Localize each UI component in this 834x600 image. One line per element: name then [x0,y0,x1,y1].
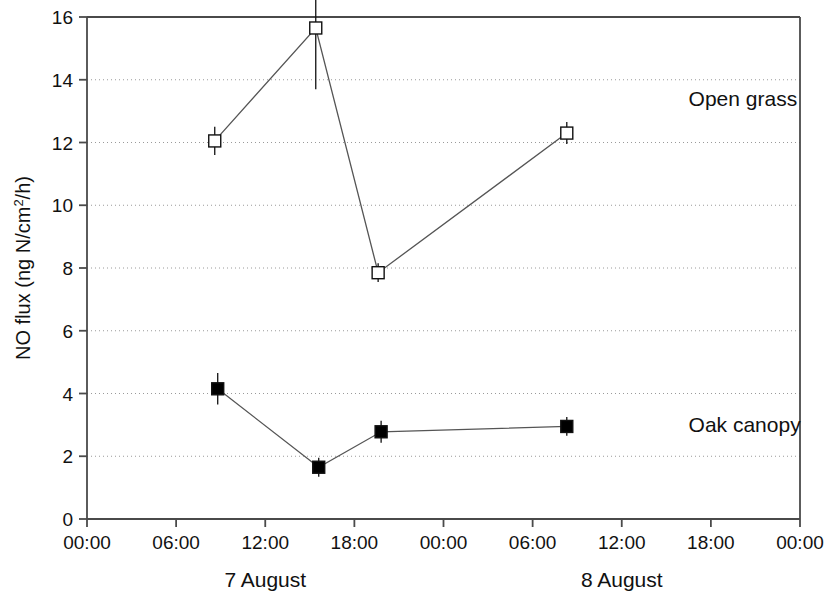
x-tick-label-4: 00:00 [420,532,468,553]
x-tick-label-3: 18:00 [331,532,379,553]
series-label-0: Open grass [689,87,798,110]
grid-lines [87,17,800,456]
data-point-3 [561,127,573,139]
day-labels: 7 August8 August [224,568,662,591]
no-flux-line-chart: 024681012141600:0006:0012:0018:0000:0006… [0,0,834,600]
y-tick-label-2: 2 [62,446,73,467]
data-point-2 [375,426,387,438]
x-tick-label-2: 12:00 [241,532,289,553]
x-axis-ticks: 00:0006:0012:0018:0000:0006:0012:0018:00… [63,519,824,553]
x-tick-label-5: 06:00 [509,532,557,553]
y-axis-ticks: 0246810121416 [52,7,87,530]
series-line [215,28,567,273]
y-tick-label-12: 12 [52,133,73,154]
x-tick-label-6: 12:00 [598,532,646,553]
data-point-0 [209,135,221,147]
y-tick-label-8: 8 [62,258,73,279]
x-tick-label-7: 18:00 [687,532,735,553]
x-tick-label-1: 06:00 [152,532,200,553]
y-axis-title-text: NO flux (ng N/cm2/h) [11,176,35,360]
y-tick-label-4: 4 [62,384,73,405]
data-point-1 [313,461,325,473]
y-tick-label-16: 16 [52,7,73,28]
y-tick-label-0: 0 [62,509,73,530]
series-oak-canopy: Oak canopy [212,373,801,477]
series-open-grass: Open grass [209,0,797,282]
y-tick-label-6: 6 [62,321,73,342]
series-line [218,389,567,467]
y-axis-title: NO flux (ng N/cm2/h) [11,176,35,360]
x-tick-label-8: 00:00 [776,532,824,553]
day-label-0: 7 August [224,568,306,591]
chart-figure: 024681012141600:0006:0012:0018:0000:0006… [0,0,834,600]
y-tick-label-14: 14 [52,70,74,91]
data-point-2 [372,267,384,279]
data-point-1 [310,22,322,34]
data-point-0 [212,383,224,395]
day-label-1: 8 August [581,568,663,591]
data-point-3 [561,420,573,432]
x-tick-label-0: 00:00 [63,532,111,553]
series-label-1: Oak canopy [689,413,802,436]
y-tick-label-10: 10 [52,195,73,216]
